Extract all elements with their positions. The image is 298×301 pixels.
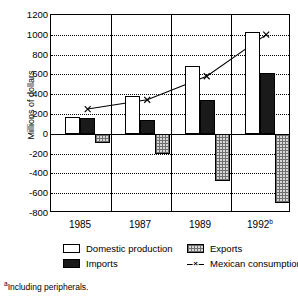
zero-axis-line	[51, 134, 289, 135]
group-separator	[231, 15, 232, 211]
y-tick-label: 400	[32, 89, 48, 98]
bar-imports-1989	[200, 100, 215, 134]
bar-exports-1987	[155, 134, 170, 154]
y-tick-label: -600	[29, 188, 48, 197]
legend-label-imports: Imports	[86, 258, 118, 269]
plot-area	[50, 14, 290, 212]
x-tick-label-1987: 1987	[129, 219, 151, 230]
bar-domestic-1987	[125, 96, 140, 134]
y-axis-tick-labels: 120010008006004002000-200-400-600-800	[14, 0, 48, 215]
y-tick-label: 1000	[27, 29, 48, 38]
legend-line-x-marker-icon: ×	[187, 259, 204, 268]
x-tick-label-1992: 1992b	[247, 219, 273, 230]
gridline	[51, 173, 289, 174]
bar-domestic-1989	[185, 66, 200, 133]
consumption-line-path	[88, 35, 266, 109]
legend-item-domestic-production: Domestic production	[63, 243, 173, 254]
bar-imports-1987	[140, 120, 155, 133]
legend-label-domestic-production: Domestic production	[86, 243, 173, 254]
x-axis-tick-labels: 1985198719891992b	[50, 219, 290, 235]
gridline	[51, 193, 289, 194]
x-tick-superscript-b: b	[269, 218, 273, 225]
bar-domestic-1992	[245, 32, 260, 134]
consumption-marker-1985	[85, 106, 91, 112]
y-tick-label: 800	[32, 49, 48, 58]
legend-swatch-exports-icon	[187, 244, 204, 253]
chart-figure: Millions of dollars 12001000800600400200…	[0, 0, 298, 301]
bar-imports-1992	[260, 73, 275, 134]
y-tick-label: -800	[29, 208, 48, 217]
y-tick-label: 600	[32, 69, 48, 78]
consumption-marker-1987	[144, 97, 150, 103]
y-tick-label: 1200	[27, 10, 48, 19]
group-separator	[111, 15, 112, 211]
bar-imports-1985	[80, 118, 95, 133]
y-tick-label: -200	[29, 148, 48, 157]
chart-legend: Domestic production Imports Exports × Me…	[63, 243, 295, 273]
y-tick-label: -400	[29, 168, 48, 177]
footnote-a: aIncluding peripherals.	[4, 282, 88, 292]
legend-item-imports: Imports	[63, 258, 118, 269]
y-tick-label: 0	[43, 128, 48, 137]
legend-swatch-imports-icon	[63, 259, 80, 268]
legend-item-exports: Exports	[187, 243, 242, 254]
x-tick-label-1985: 1985	[69, 219, 91, 230]
bar-exports-1992	[275, 134, 290, 203]
legend-swatch-domestic-production-icon	[63, 244, 80, 253]
x-tick-label-1989: 1989	[189, 219, 211, 230]
bar-exports-1989	[215, 134, 230, 182]
footnote-text-a: Including peripherals.	[8, 282, 89, 292]
group-separator	[171, 15, 172, 211]
legend-item-mexican-consumption: × Mexican consumptionc	[187, 258, 298, 269]
y-tick-label: 200	[32, 109, 48, 118]
legend-label-mexican-consumption: Mexican consumption	[210, 258, 298, 269]
bar-exports-1985	[95, 134, 110, 143]
gridline	[51, 154, 289, 155]
legend-label-exports: Exports	[210, 243, 242, 254]
bar-domestic-1985	[65, 117, 80, 134]
